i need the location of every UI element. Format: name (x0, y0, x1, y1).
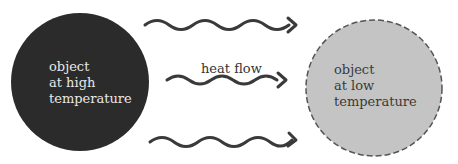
hot-label-line: temperature (49, 91, 132, 107)
hot-object-label: object at high temperature (49, 59, 132, 107)
cold-object-label: object at low temperature (334, 62, 417, 110)
heat-arrow-top (145, 18, 296, 32)
cold-label-line: temperature (334, 94, 417, 110)
heat-flow-label: heat flow (201, 61, 262, 77)
hot-label-line: object (49, 59, 132, 75)
hot-label-line: at high (49, 75, 132, 91)
cold-label-line: at low (334, 78, 417, 94)
cold-label-line: object (334, 62, 417, 78)
heat-arrow-bottom (150, 133, 296, 147)
